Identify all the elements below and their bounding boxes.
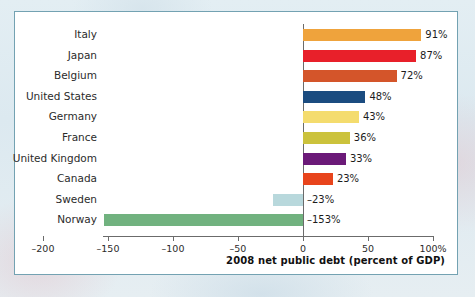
bar-value-label-germany: 43% [363,110,385,123]
x-axis-tick-label: –200 [32,243,55,254]
bar-value-label-united-kingdom: 33% [350,152,372,165]
bar-value-label-norway: –153% [307,213,341,226]
bar-value-label-sweden: –23% [307,193,334,206]
x-axis-title: 2008 net public debt (percent of GDP) [15,255,445,266]
bar-row: –23% [15,190,459,210]
x-axis-tick [108,236,109,241]
x-axis-tick [238,236,239,241]
x-axis-tick-label: 100% [419,243,446,254]
bar-france[interactable] [303,132,350,144]
bar-value-label-italy: 91% [425,28,447,41]
x-axis-tick-label: 0 [300,243,306,254]
x-axis-tick-label: –150 [97,243,120,254]
bar-row: 72% [15,66,459,86]
bar-belgium[interactable] [303,70,397,82]
bar-value-label-united-states: 48% [369,90,391,103]
x-axis-line [103,236,433,237]
bar-united-states[interactable] [303,91,365,103]
chart-frame: ItalyJapanBelgiumUnited StatesGermanyFra… [14,11,458,275]
bar-row: 48% [15,87,459,107]
bar-canada[interactable] [303,173,333,185]
bar-value-label-japan: 87% [420,49,442,62]
bar-row: 23% [15,169,459,189]
bar-value-label-canada: 23% [337,172,359,185]
bar-row: –153% [15,210,459,230]
x-axis-tick [433,236,434,241]
bar-row: 91% [15,25,459,45]
bar-row: 33% [15,149,459,169]
x-axis-tick [43,236,44,241]
bar-value-label-france: 36% [354,131,376,144]
page-background: ItalyJapanBelgiumUnited StatesGermanyFra… [0,0,475,297]
x-axis-tick [303,236,304,241]
bar-row: 36% [15,128,459,148]
x-axis-tick [173,236,174,241]
bar-series: 91%87%72%48%43%36%33%23%–23%–153% [15,24,459,236]
bar-sweden[interactable] [273,194,303,206]
bar-norway[interactable] [104,214,303,226]
x-axis-tick [368,236,369,241]
x-axis-tick-label: 50 [362,243,374,254]
bar-japan[interactable] [303,50,416,62]
chart-plot-area: ItalyJapanBelgiumUnited StatesGermanyFra… [15,12,459,276]
bar-united-kingdom[interactable] [303,153,346,165]
x-axis-tick-label: –100 [162,243,185,254]
x-axis-tick-label: –50 [230,243,247,254]
bar-row: 43% [15,107,459,127]
bar-italy[interactable] [303,29,421,41]
bar-value-label-belgium: 72% [401,69,423,82]
bar-row: 87% [15,46,459,66]
bar-germany[interactable] [303,111,359,123]
